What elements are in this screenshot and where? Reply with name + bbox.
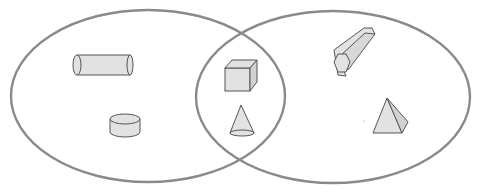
cone-icon <box>230 105 254 136</box>
cylinder-short-icon <box>110 114 140 137</box>
cylinder-horizontal-icon <box>73 55 133 75</box>
venn-diagram <box>0 0 480 193</box>
left-set-ellipse <box>11 10 285 182</box>
hexagonal-prism-icon <box>334 28 375 76</box>
cube-icon <box>225 60 257 91</box>
right-set-ellipse <box>196 11 470 183</box>
pyramid-icon <box>373 98 408 133</box>
